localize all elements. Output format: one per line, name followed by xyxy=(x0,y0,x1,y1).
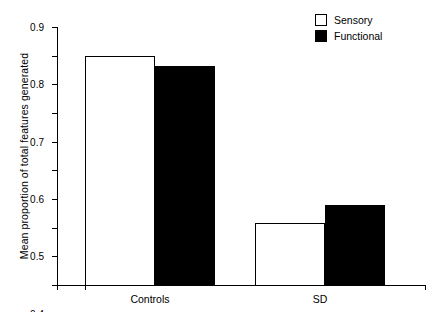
y-tick-label: 0.4 xyxy=(30,308,44,312)
y-tick-mark: 0.8 xyxy=(52,56,57,57)
legend-label: Functional xyxy=(334,30,382,42)
y-tick-label: 0.9 xyxy=(30,22,44,33)
legend-item: Functional xyxy=(315,30,382,42)
bar-sensory-sd xyxy=(255,223,325,286)
y-tick-mark: 0.7 xyxy=(52,84,57,85)
legend-swatch-sensory xyxy=(315,14,327,26)
y-tick-label: 0.6 xyxy=(30,194,44,205)
chart-legend: SensoryFunctional xyxy=(315,14,382,42)
bar-chart-figure: Mean proportion of total features genera… xyxy=(0,0,446,312)
bar-functional-sd xyxy=(325,205,385,286)
bar-functional-controls xyxy=(155,66,215,286)
y-tick-mark: 0.1 xyxy=(52,256,57,257)
legend-swatch-functional xyxy=(315,30,327,42)
y-tick-label: 0.8 xyxy=(30,79,44,90)
y-axis-title: Mean proportion of total features genera… xyxy=(16,0,32,312)
y-axis-line xyxy=(57,27,58,285)
x-tick-mark xyxy=(425,285,426,290)
x-tick-mark xyxy=(57,285,58,290)
y-tick-mark: 0.9 xyxy=(52,27,57,28)
y-tick-mark: 0.4 xyxy=(52,170,57,171)
y-tick-mark: 0.2 xyxy=(52,228,57,229)
y-tick-label: 0.7 xyxy=(30,136,44,147)
x-tick-label: SD xyxy=(313,293,328,305)
legend-label: Sensory xyxy=(334,14,373,26)
bar-sensory-controls xyxy=(85,56,155,286)
legend-item: Sensory xyxy=(315,14,382,26)
x-tick-label: Controls xyxy=(130,293,169,305)
y-tick-mark: 0.6 xyxy=(52,113,57,114)
y-tick-mark: 0.5 xyxy=(52,142,57,143)
plot-area: 00.10.20.30.40.50.60.70.80.9 ControlsSD xyxy=(57,27,425,285)
y-tick-mark: 0.3 xyxy=(52,199,57,200)
y-tick-label: 0.5 xyxy=(30,251,44,262)
